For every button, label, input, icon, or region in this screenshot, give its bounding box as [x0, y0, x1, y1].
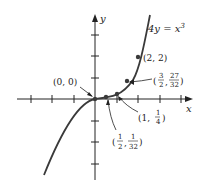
- cubic-graph: x y 4y = x3 (0, 0) (2, 2) (: [0, 0, 211, 189]
- point-origin: [93, 97, 97, 101]
- cubic-curve: [44, 15, 150, 175]
- svg-text:2: 2: [159, 81, 163, 89]
- svg-text:32: 32: [129, 143, 138, 151]
- svg-text:2: 2: [118, 143, 122, 151]
- svg-text:(1,: (1,: [138, 113, 150, 123]
- svg-text:,: ,: [165, 77, 168, 87]
- point-two: [136, 55, 140, 59]
- svg-text:): ): [139, 137, 143, 147]
- equation-label: 4y = x3: [147, 22, 185, 34]
- point-three-halves: [125, 79, 129, 83]
- svg-text:1: 1: [118, 133, 122, 141]
- svg-text:3: 3: [159, 72, 163, 80]
- svg-text:(: (: [153, 76, 157, 86]
- svg-text:4: 4: [156, 118, 161, 126]
- x-axis-label: x: [186, 103, 192, 114]
- y-axis: y: [91, 13, 106, 180]
- label-half: ( 1 2 , 1 32 ): [112, 133, 143, 151]
- svg-text:1: 1: [131, 133, 135, 141]
- point-one: [115, 92, 119, 96]
- arrow-half-head-icon: [106, 99, 110, 105]
- svg-text:27: 27: [170, 72, 179, 80]
- point-half: [104, 95, 108, 99]
- svg-text:): ): [162, 113, 166, 123]
- svg-text:): ): [180, 76, 184, 86]
- x-axis-arrow-icon: [185, 96, 193, 102]
- y-axis-arrow-icon: [92, 14, 98, 22]
- label-one: (1, 1 4 ): [138, 109, 166, 126]
- svg-text:1: 1: [156, 109, 160, 117]
- svg-text:(: (: [112, 137, 116, 147]
- y-axis-label: y: [99, 13, 106, 24]
- svg-text:,: ,: [124, 138, 127, 148]
- label-point-two: (2, 2): [143, 53, 167, 63]
- svg-text:32: 32: [170, 81, 179, 89]
- label-origin: (0, 0): [53, 77, 77, 87]
- label-three-halves: ( 3 2 , 27 32 ): [153, 72, 184, 89]
